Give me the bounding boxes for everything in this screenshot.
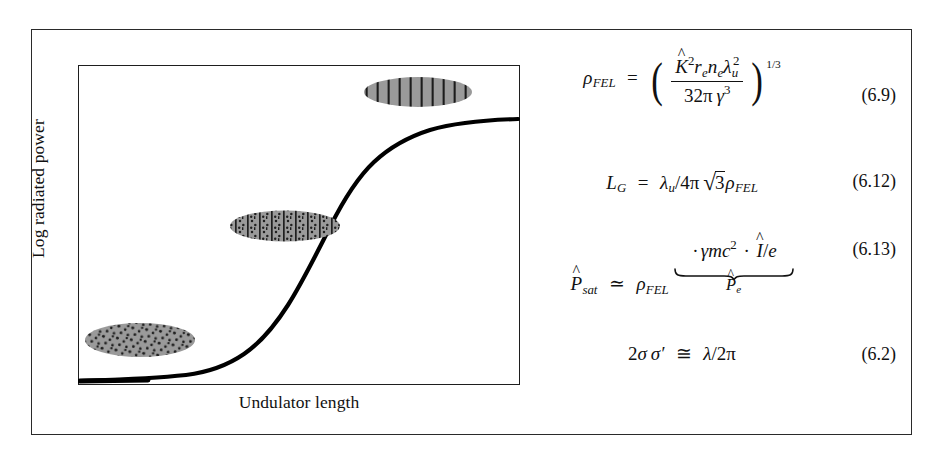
equation-tag-6-12: (6.12) [853, 171, 897, 192]
left-paren: ( [652, 65, 664, 95]
equation-body-rho-fel: ρFEL = ( ^K2reneλu2 32π γ3 )1/3 [524, 53, 840, 106]
gain-curve-baseline [80, 380, 148, 381]
fraction-rho-fel: ^K2reneλu2 32π γ3 [671, 54, 743, 107]
fraction-numerator: ^K2reneλu2 [671, 54, 743, 81]
equations-panel: ρFEL = ( ^K2reneλu2 32π γ3 )1/3 (6.9) rh… [524, 29, 912, 435]
bunch-ellipse-fully-bunched [364, 77, 472, 107]
equation-body-saturation-power: ^Psat ≃ ρFEL ·γmc2 · ^I/e ^Pe [524, 237, 840, 298]
y-axis-label: Log radiated power [28, 89, 49, 289]
right-paren: ) [751, 65, 763, 95]
equation-tag-6-2: (6.2) [862, 344, 897, 365]
x-axis-label: Undulator length [78, 392, 520, 413]
gain-curve-plot-panel: Log radiated power Undulator length [0, 0, 520, 457]
equation-body-emittance-condition: 2σ σ′ ≅ λ/2π [524, 342, 840, 365]
plot-canvas [78, 65, 520, 385]
equation-body-gain-length: LG = λu/4π √3ρFEL [524, 169, 840, 196]
underbrace-group-electron-power: ·γmc2 · ^I/e ^Pe [674, 237, 794, 296]
fraction-denominator: 32π γ3 [671, 81, 743, 106]
equation-tag-6-13: (6.13) [853, 239, 897, 260]
equation-tag-6-9: (6.9) [862, 85, 897, 106]
bunch-ellipse-unbunched [85, 323, 195, 357]
figure-root: Log radiated power Undulator length ρFEL… [0, 0, 943, 457]
bunch-ellipse-partially-bunched [230, 211, 340, 242]
exponent-one-third: 1/3 [766, 58, 781, 70]
square-root-3: √3 [703, 169, 725, 196]
underbrace-content: ·γmc2 · ^I/e [674, 237, 794, 262]
